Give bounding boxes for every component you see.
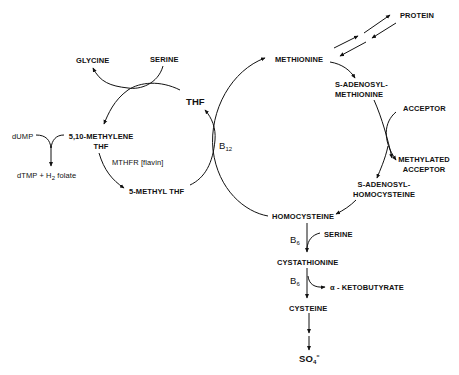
homocysteine-label: HOMOCYSTEINE <box>272 213 334 221</box>
serine-bottom-label: SERINE <box>324 231 353 239</box>
glycine-label: GLYCINE <box>76 57 109 65</box>
sah-to-homocysteine-arrow <box>336 200 356 214</box>
dtmp-tail: folate <box>55 171 76 180</box>
ketobutyrate-label: α - KETOBUTYRATE <box>330 284 404 292</box>
so4-label: SO4= <box>299 354 319 365</box>
b6-second-subscript: 6 <box>296 281 299 287</box>
serine-to-glycine-arrow <box>93 66 163 88</box>
methionine-to-sam-arrow <box>330 62 355 78</box>
methylated-acceptor-line2: ACCEPTOR <box>394 166 454 174</box>
so4-superscript: = <box>316 353 319 359</box>
dump-to-dtmp-arrow <box>36 135 64 148</box>
b6-first-subscript: 6 <box>296 240 299 246</box>
methylene-thf-label: 5,10-METHYLENE THF <box>66 133 136 150</box>
homocysteine-to-methionine-arrow <box>213 58 268 216</box>
sam-to-sah-arrow <box>374 100 392 158</box>
methyl-thf-label: 5-METHYL THF <box>129 188 184 196</box>
thf-to-methylene-arrow <box>104 83 180 124</box>
b6-second-label: B6 <box>290 276 300 287</box>
methionine-label: METHIONINE <box>275 56 323 64</box>
methylated-acceptor-label: METHYLATED ACCEPTOR <box>394 156 454 173</box>
sah-label: S-ADENOSYL- HOMOCYSTEINE <box>351 181 417 198</box>
thf-label: THF <box>186 97 205 107</box>
b6-first-label: B6 <box>290 235 300 246</box>
sam-line2: METHIONINE <box>335 91 388 99</box>
sah-line2: HOMOCYSTEINE <box>351 191 417 199</box>
serine-top-label: SERINE <box>150 56 179 64</box>
acceptor-label: ACCEPTOR <box>403 105 446 113</box>
sam-line1: S-ADENOSYL- <box>335 81 388 89</box>
dtmp-text: dTMP + H <box>17 171 52 180</box>
ketobutyrate-arrow <box>308 276 325 287</box>
methylene-thf-line2: THF <box>66 143 136 151</box>
sam-label: S-ADENOSYL- METHIONINE <box>335 81 388 98</box>
b12-subscript: 12 <box>225 146 232 152</box>
methionine-to-protein-arrow-1 <box>334 36 358 48</box>
mthfr-label: MTHFR [flavin] <box>112 159 163 167</box>
methylene-thf-line1: 5,10-METHYLENE <box>66 133 136 141</box>
sah-line1: S-ADENOSYL- <box>351 181 417 189</box>
b12-label: B12 <box>219 141 232 152</box>
dump-label: dUMP <box>12 133 33 141</box>
so4-subscript: 4 <box>313 359 316 365</box>
so4-text: SO <box>299 353 313 364</box>
methylthf-to-thf-arrow <box>190 110 215 185</box>
cysteine-label: CYSTEINE <box>289 305 327 313</box>
methylated-acceptor-line1: METHYLATED <box>394 156 454 164</box>
protein-label: PROTEIN <box>400 12 434 20</box>
cystathionine-label: CYSTATHIONINE <box>277 259 338 267</box>
acceptor-to-methylated-arrow <box>386 112 396 160</box>
serine-join-arrow <box>307 233 320 248</box>
dtmp-label: dTMP + H2 folate <box>17 172 76 181</box>
